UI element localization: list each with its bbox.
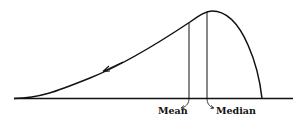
- median-label: Median: [216, 105, 256, 116]
- skewed-distribution-diagram: Mean Median: [0, 0, 302, 119]
- distribution-curve: [14, 11, 262, 99]
- skew-arrow-shaft: [104, 62, 123, 71]
- mean-label: Mean: [158, 105, 188, 116]
